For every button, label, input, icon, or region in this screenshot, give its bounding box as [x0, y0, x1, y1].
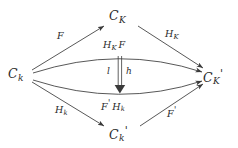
arrow-left-to-bottom	[32, 82, 104, 126]
edge-label-H-K: HK	[165, 29, 179, 41]
two-cell-label-l: l	[107, 66, 110, 76]
two-cell-label-h-text: h	[126, 66, 132, 76]
node-c-k-left-base: C	[8, 66, 18, 81]
edge-label-lower-curve: F' Hk	[101, 99, 125, 113]
two-cell-label-l-text: l	[107, 66, 110, 76]
node-c-k-upper-base: C	[109, 8, 119, 23]
node-c-k-right-base: C	[203, 70, 213, 85]
edge-label-upper-F: F	[119, 39, 126, 50]
node-c-k-right-subscript: K	[213, 76, 220, 86]
edge-label-H-K-subscript: K	[173, 33, 178, 41]
edge-label-lower-F-prime: '	[108, 98, 111, 108]
node-c-k-bottom-prime: '	[124, 124, 127, 137]
edge-label-F-prime: F'	[167, 106, 176, 118]
arrow-upper-curve	[33, 59, 202, 73]
arrow-bottom-to-right	[140, 84, 203, 126]
edge-label-F-text: F	[57, 30, 64, 41]
two-cell-double-arrow	[115, 56, 126, 94]
node-c-k-prime-right: CK'	[203, 68, 223, 86]
edge-label-lower-H-subscript: k	[120, 105, 124, 113]
node-c-k-prime-bottom: Ck'	[109, 125, 128, 143]
edge-label-H-k-subscript: k	[63, 109, 67, 117]
edge-label-upper-curve: HK F	[103, 40, 125, 52]
node-c-k-right-prime: '	[220, 67, 223, 80]
node-c-k-upper-subscript: K	[119, 15, 126, 25]
node-c-k-upper: CK	[109, 10, 126, 25]
two-cell-label-h: h	[126, 66, 132, 76]
node-c-k-bottom-base: C	[109, 127, 119, 142]
node-c-k-lowercase-left: Ck	[8, 68, 23, 83]
edge-label-F-prime-mark: '	[174, 105, 177, 115]
node-c-k-left-subscript: k	[18, 73, 24, 83]
arrow-left-to-top	[32, 26, 104, 70]
edge-label-F-prime-base: F	[167, 108, 174, 119]
commutative-diagram: CK Ck CK' Ck' F HK Hk F' HK F F' Hk l h	[0, 0, 238, 148]
edge-label-H-k: Hk	[55, 105, 68, 117]
edge-label-F: F	[57, 31, 64, 41]
edge-label-lower-F: F	[101, 101, 108, 112]
edge-label-upper-H-subscript: K	[111, 44, 116, 52]
